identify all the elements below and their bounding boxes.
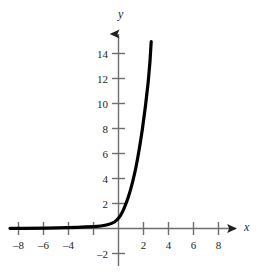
x-tick-label--4: –4 — [63, 240, 74, 251]
y-tick-label-6: 6 — [91, 148, 108, 159]
x-axis-label: x — [244, 221, 249, 233]
y-axis-label: y — [118, 8, 123, 20]
x-tick-label-4: 4 — [166, 240, 172, 251]
y-tick-label--2: –2 — [88, 248, 108, 259]
y-tick-label-2: 2 — [91, 198, 108, 209]
y-tick-label-4: 4 — [91, 173, 108, 184]
x-tick-label-8: 8 — [216, 240, 222, 251]
x-tick-label-6: 6 — [191, 240, 197, 251]
y-tick-label-12: 12 — [91, 73, 108, 84]
y-tick-label-10: 10 — [91, 98, 108, 109]
y-tick-label-14: 14 — [91, 48, 108, 59]
exponential-curve — [10, 42, 151, 229]
y-tick-label-8: 8 — [91, 123, 108, 134]
x-tick-label--8: –8 — [13, 240, 24, 251]
plot-canvas — [0, 0, 259, 277]
x-tick-label-2: 2 — [141, 240, 147, 251]
x-tick-label--6: –6 — [38, 240, 49, 251]
exponential-graph-figure: –8 –6 –4 2 4 6 8 14 12 10 8 6 4 2 –2 y x — [0, 0, 259, 277]
